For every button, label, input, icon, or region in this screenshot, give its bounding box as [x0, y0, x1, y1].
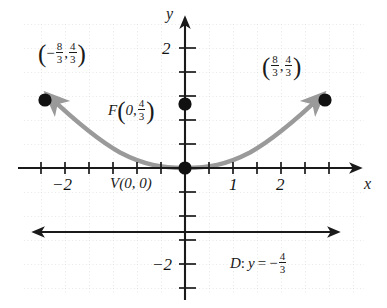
parabola-figure: (−83,43) (83,43) F(0,43) V(0, 0) D:y=−43… [0, 0, 387, 308]
point-vertex [178, 161, 191, 174]
left-minus-sign: − [46, 45, 54, 61]
right-y-fraction: 43 [285, 54, 293, 79]
right-x-fraction: 83 [271, 54, 279, 79]
left-comma: , [64, 45, 68, 61]
right-paren-close: ) [293, 54, 301, 79]
label-left-point: (−83,43) [38, 42, 86, 67]
directrix-name: D [230, 255, 241, 271]
directrix-variable: y [248, 255, 255, 271]
point-right-endpoint [318, 93, 331, 106]
left-paren-open: ( [38, 41, 46, 66]
y-tick-label-neg2: −2 [152, 256, 172, 273]
left-y-fraction: 43 [69, 41, 77, 66]
x-axis-label: x [364, 176, 371, 192]
directrix-colon: : [241, 255, 245, 271]
x-tick-label-neg2: −2 [52, 176, 72, 193]
y-tick-label-2: 2 [162, 40, 171, 57]
label-focus: F(0,43) [108, 99, 155, 124]
focus-name: F [108, 102, 117, 118]
label-right-point: (83,43) [262, 55, 301, 80]
directrix-equals: = [258, 255, 266, 271]
y-axis-label: y [166, 6, 173, 22]
focus-x-value: 0, [126, 102, 137, 118]
focus-y-fraction: 43 [138, 98, 146, 123]
directrix-fraction: 43 [279, 251, 287, 276]
label-directrix: D:y=−43 [230, 252, 287, 277]
point-focus [178, 97, 191, 110]
x-tick-label-1: 1 [229, 176, 238, 193]
right-paren-open: ( [262, 54, 270, 79]
point-left-endpoint [38, 93, 51, 106]
directrix-minus: − [269, 255, 277, 271]
focus-paren-open: ( [117, 98, 125, 123]
label-vertex: V(0, 0) [110, 176, 152, 191]
left-paren-close: ) [78, 41, 86, 66]
x-tick-label-2: 2 [276, 176, 285, 193]
left-x-fraction: 83 [56, 41, 64, 66]
focus-paren-close: ) [146, 98, 154, 123]
right-comma: , [280, 58, 284, 74]
